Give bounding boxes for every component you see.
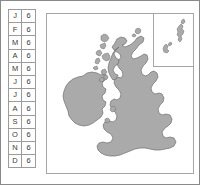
month-value: 6 [22, 89, 36, 102]
outer-hebrides-uist-north [96, 50, 102, 56]
outer-hebrides-lewis [101, 34, 109, 42]
shetland-inset-svg [154, 14, 193, 66]
month-label: J [9, 10, 22, 23]
outer-hebrides-barra [93, 66, 98, 70]
figure-root: J 6 F 6 M 6 A 6 M 6 J 6 [0, 0, 200, 185]
table-row: M 6 [9, 62, 36, 75]
month-label: J [9, 75, 22, 88]
month-label: S [9, 115, 22, 128]
month-value: 6 [22, 75, 36, 88]
table-row: S 6 [9, 115, 36, 128]
table-row: O 6 [9, 128, 36, 141]
month-value-table: J 6 F 6 M 6 A 6 M 6 J 6 [8, 9, 36, 168]
orkney-islands-south [132, 34, 136, 37]
table-row: A 6 [9, 102, 36, 115]
month-value: 6 [22, 141, 36, 154]
outer-hebrides-harris [100, 43, 106, 49]
month-label: M [9, 62, 22, 75]
table-row: M 6 [9, 36, 36, 49]
month-value: 6 [22, 36, 36, 49]
table-row: J 6 [9, 75, 36, 88]
table-row: J 6 [9, 89, 36, 102]
month-label: J [9, 89, 22, 102]
isle-of-mull [101, 69, 107, 75]
month-label: M [9, 36, 22, 49]
month-label: O [9, 128, 22, 141]
orkney-islands [135, 28, 141, 34]
table-row: F 6 [9, 23, 36, 36]
shetland-southern-group [163, 44, 169, 53]
month-value-table-body: J 6 F 6 M 6 A 6 M 6 J 6 [9, 10, 36, 168]
month-label: A [9, 102, 22, 115]
table-row: D 6 [9, 155, 36, 168]
month-label: A [9, 49, 22, 62]
month-value: 6 [22, 62, 36, 75]
month-value: 6 [22, 10, 36, 23]
table-row: A 6 [9, 49, 36, 62]
table-row: J 6 [9, 10, 36, 23]
shetland-yell-unst [181, 19, 185, 24]
isle-of-man [110, 106, 116, 112]
month-value: 6 [22, 115, 36, 128]
shetland-mainland [177, 24, 184, 42]
month-label: D [9, 155, 22, 168]
month-value: 6 [22, 155, 36, 168]
month-label: N [9, 141, 22, 154]
month-value: 6 [22, 102, 36, 115]
shetland-inset-box [153, 13, 194, 67]
month-value: 6 [22, 128, 36, 141]
month-value: 6 [22, 49, 36, 62]
map-panel [46, 13, 194, 174]
outer-hebrides-uist-south [95, 58, 100, 64]
month-value: 6 [22, 23, 36, 36]
month-label: F [9, 23, 22, 36]
table-row: N 6 [9, 141, 36, 154]
shetland-small-islet [168, 42, 172, 46]
isle-of-skye [102, 53, 110, 61]
